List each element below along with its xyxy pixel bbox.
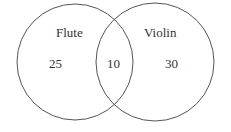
- flute-only-count: 25: [49, 57, 62, 70]
- violin-only-count: 30: [165, 57, 178, 70]
- flute-label: Flute: [56, 26, 83, 39]
- violin-label: Violin: [144, 26, 176, 39]
- intersection-count: 10: [107, 57, 120, 70]
